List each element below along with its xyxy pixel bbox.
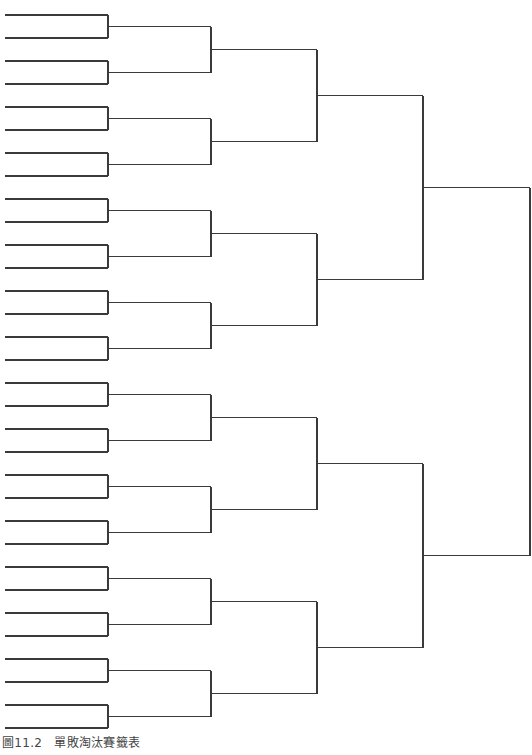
figure-title: 單敗淘汰賽籤表 [54, 736, 140, 750]
tournament-bracket [0, 0, 532, 730]
figure-number: 圖11.2 [2, 736, 42, 750]
figure-caption: 圖11.2單敗淘汰賽籤表 [2, 733, 140, 750]
